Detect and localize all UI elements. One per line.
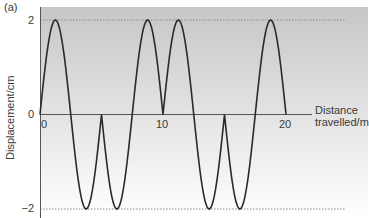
y-tick-0: 0 bbox=[20, 108, 34, 120]
x-tick-10: 10 bbox=[156, 118, 168, 130]
x-axis-label-line2: travelled/m bbox=[315, 116, 369, 128]
x-axis-label-line1: Distance bbox=[315, 104, 369, 116]
x-tick-20: 20 bbox=[279, 118, 291, 130]
y-tick-minus-2: −2 bbox=[20, 202, 34, 214]
x-tick-0: 0 bbox=[41, 118, 47, 130]
panel-label: (a) bbox=[4, 1, 17, 13]
x-axis-label: Distance travelled/m bbox=[315, 104, 369, 128]
y-tick-2: 2 bbox=[20, 14, 34, 26]
y-axis-label: Displacement/cm bbox=[4, 76, 16, 160]
